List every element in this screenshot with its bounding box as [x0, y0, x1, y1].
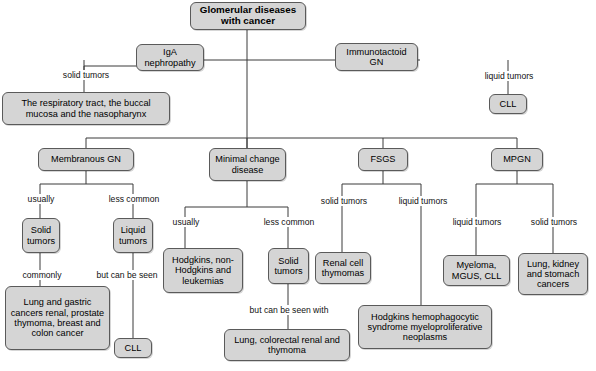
node-mpgn-lung-kidney: Lung, kidney and stomach cancers [518, 253, 588, 295]
edge-label-immuno-liquid-tumors: liquid tumors [470, 71, 548, 81]
node-membranous-liquid-detail-cll: CLL [114, 338, 152, 358]
node-fsgs: FSGS [358, 148, 408, 171]
node-iga-nephropathy: IgA nephropathy [136, 44, 204, 71]
node-fsgs-renal-cell-thymomas: Renal cell thymomas [315, 252, 371, 284]
node-mpgn: MPGN [491, 148, 543, 171]
node-membranous-solid-detail: Lung and gastric cancers renal, prostate… [5, 286, 110, 350]
node-minimal-change-disease: Minimal change disease [209, 148, 286, 181]
edge-label-mcd-usually: usually [159, 217, 213, 227]
node-membranous-solid-tumors: Solid tumors [22, 218, 60, 253]
edge-label-mcd-but-can-be-seen-with: but can be seen with [229, 305, 349, 315]
edge-label-iga-solid-tumors: solid tumors [48, 70, 124, 80]
edge-label-mem-usually: usually [14, 194, 68, 204]
node-mcd-solid-detail: Lung, colorectal renal and thymoma [224, 329, 350, 361]
edge-label-fsgs-solid-tumors: solid tumors [306, 196, 382, 206]
node-cll-immunotactoid: CLL [489, 94, 527, 114]
edge-label-mem-less-common: less common [95, 194, 173, 204]
edge-label-mem-commonly: commonly [12, 270, 72, 280]
node-mcd-hodgkins: Hodgkins, non-Hodgkins and leukemias [163, 248, 243, 293]
node-respiratory-tract: The respiratory tract, the buccal mucosa… [2, 92, 170, 125]
node-fsgs-hodgkins-detail: Hodgkins hemophagocytic syndrome myelopr… [358, 305, 492, 349]
node-mcd-solid-tumors: Solid tumors [268, 248, 309, 284]
edge-label-mcd-less-common: less common [250, 217, 328, 227]
node-membranous-liquid-tumors: Liquid tumors [113, 218, 153, 253]
edge-label-mpgn-solid-tumors: solid tumors [516, 217, 592, 227]
edge-label-mpgn-liquid-tumors: liquid tumors [438, 217, 516, 227]
node-immunotactoid-gn: Immunotactoid GN [335, 43, 418, 71]
edge-label-fsgs-liquid-tumors: liquid tumors [384, 196, 462, 206]
node-root: Glomerular diseases with cancer [190, 2, 306, 30]
edge-label-mem-but-can-be-seen: but can be seen [80, 270, 174, 280]
diagram-canvas: Glomerular diseases with cancer IgA neph… [0, 0, 596, 371]
node-mpgn-myeloma: Myeloma, MGUS, CLL [443, 255, 510, 286]
node-membranous-gn: Membranous GN [38, 148, 134, 171]
